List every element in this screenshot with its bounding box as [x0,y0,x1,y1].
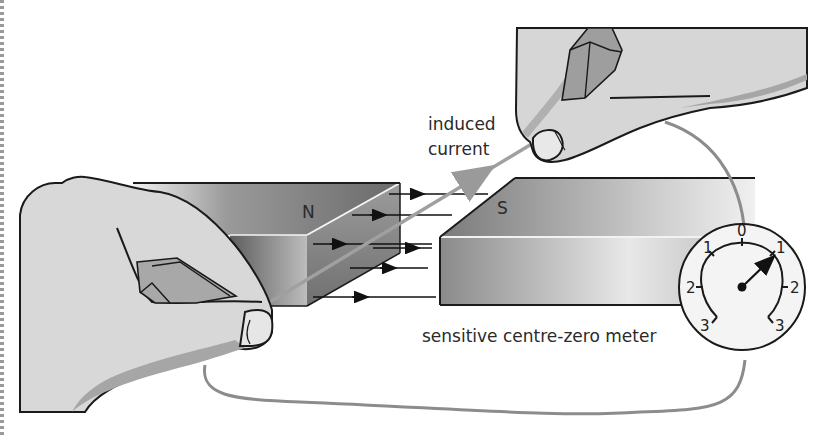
meter-scale-right-3: 3 [775,317,785,335]
meter-scale-left-2: 2 [686,279,696,297]
centre-zero-meter: 0 1 1 2 2 3 3 [679,222,805,350]
induced-current-label-line1: induced [428,114,496,134]
meter-pivot [738,283,747,292]
meter-scale-left-3: 3 [700,317,710,335]
meter-scale-left-1: 1 [703,239,713,257]
south-pole-label: S [497,198,508,218]
meter-label: sensitive centre-zero meter [422,326,656,346]
induction-diagram: N S [0,0,833,436]
meter-scale-0: 0 [737,222,747,240]
wire-bottom-loop [204,360,745,414]
meter-scale-right-1: 1 [776,239,786,257]
induced-current-label-line2: current [428,139,490,159]
induced-current-arrow-icon [462,176,478,186]
meter-scale-right-2: 2 [790,279,800,297]
right-hand [516,28,807,162]
north-pole-label: N [302,202,315,222]
